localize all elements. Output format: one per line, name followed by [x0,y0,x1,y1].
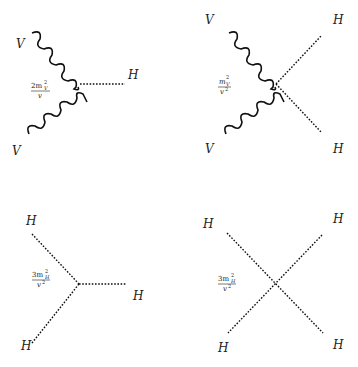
svg-text:2: 2 [42,279,45,285]
svg-text:v: v [220,88,224,96]
label-h-top-left: H [202,217,214,231]
svg-text:v: v [223,285,227,293]
feynman-diagrams-canvas: V V H 2m 2 V v V V H H m 2 V v 2 [0,0,358,367]
label-h-right: H [127,68,139,82]
diagram-vvhh: V V H H m 2 V v 2 [205,13,344,156]
svg-text:2: 2 [225,86,228,92]
label-v-top: V [205,13,215,27]
label-h-bottom: H [332,142,344,156]
coupling-label: 2m 2 V v [31,79,50,100]
svg-text:2: 2 [226,74,229,80]
higgs-line-bottom-left [32,284,79,343]
label-h-top: H [332,13,344,27]
gauge-boson-line-bottom [225,93,284,134]
svg-text:V: V [44,85,49,91]
svg-text:v: v [37,281,41,289]
label-h-right: H [132,289,144,303]
coupling-label: 3m 2 H v 2 [32,268,50,289]
gauge-boson-line-top [229,32,276,90]
diagram-hhh: H H H 3m 2 H v 2 [20,214,144,353]
svg-text:3m: 3m [218,275,229,283]
label-v-top: V [16,37,26,51]
higgs-line-diagonal-1 [227,233,323,333]
label-h-top: H [25,214,37,228]
svg-text:3m: 3m [32,271,43,279]
gauge-boson-line-top [32,32,79,90]
label-h-bottom-right: H [332,338,344,352]
gauge-boson-line-bottom [28,93,87,134]
coupling-label: 3m 2 H v 2 [218,272,236,293]
diagram-hhhh: H H H H 3m 2 H v 2 [202,212,344,355]
label-h-top-right: H [332,212,344,226]
svg-text:m: m [219,78,226,86]
svg-text:2m: 2m [31,82,42,90]
coupling-label: m 2 V v 2 [218,74,231,96]
diagram-vvh: V V H 2m 2 V v [12,32,139,158]
higgs-line-top [276,35,322,84]
label-v-bottom: V [12,144,22,158]
svg-text:v: v [38,92,42,100]
label-h-bottom-left: H [217,341,229,355]
svg-text:2: 2 [228,283,231,289]
label-v-bottom: V [205,142,215,156]
higgs-line-bottom [276,84,322,133]
label-h-bottom: H [20,339,32,353]
